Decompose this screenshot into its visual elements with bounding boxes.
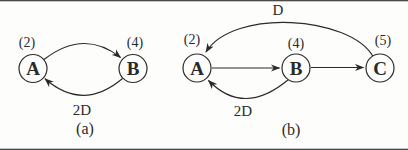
node-a-weight: (2) bbox=[184, 32, 201, 48]
edge-a-to-b-arc bbox=[44, 43, 121, 59]
edge-b-to-a-label: 2D bbox=[234, 103, 253, 119]
bottom-rule bbox=[0, 149, 408, 150]
node-b-weight: (4) bbox=[127, 35, 144, 51]
node-b-label: B bbox=[290, 58, 303, 79]
node-a-label: A bbox=[190, 58, 204, 79]
edge-b-to-a-arc bbox=[45, 79, 123, 96]
node-a-label: A bbox=[26, 58, 40, 79]
node-a-weight: (2) bbox=[19, 35, 36, 51]
node-c-label: C bbox=[373, 58, 387, 79]
edge-b-to-a-label: 2D bbox=[73, 102, 92, 118]
node-b-weight: (4) bbox=[288, 36, 305, 52]
diagram-b: A (2) B (4) C (5) D 2D (b) bbox=[183, 2, 394, 139]
caption-b: (b) bbox=[282, 121, 301, 139]
diagram-a: A (2) B (4) 2D (a) bbox=[19, 35, 147, 138]
node-b-label: B bbox=[127, 58, 140, 79]
edge-c-to-a-label: D bbox=[273, 2, 284, 18]
node-c-weight: (5) bbox=[375, 33, 392, 49]
edge-b-to-a-arc bbox=[209, 80, 289, 99]
top-rule bbox=[0, 0, 408, 1]
graph-figure: A (2) B (4) 2D (a) A (2) B (4) C (5) D 2… bbox=[0, 0, 408, 150]
caption-a: (a) bbox=[76, 120, 94, 138]
